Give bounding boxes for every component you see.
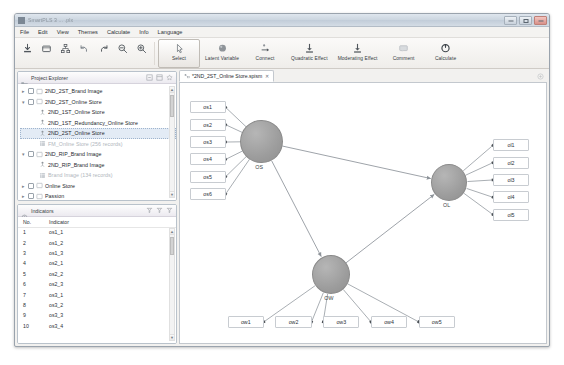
measurement-path-ow2[interactable] bbox=[312, 293, 324, 322]
twisty-expanded-icon[interactable]: ▾ bbox=[20, 151, 26, 157]
project-tree-item[interactable]: ▾2ND_RIP_Brand Image bbox=[20, 149, 176, 160]
measurement-path-ol4[interactable] bbox=[467, 188, 493, 197]
table-row[interactable]: 4os2_1 bbox=[18, 258, 176, 268]
project-tree[interactable]: ▸2ND_2ST_Brand Image▾2ND_2ST_Online Stor… bbox=[18, 84, 176, 200]
table-row[interactable]: 7os3_1 bbox=[18, 289, 176, 299]
measurement-path-ol5[interactable] bbox=[464, 193, 493, 214]
indicator-box-ol4[interactable]: ol4 bbox=[493, 191, 529, 203]
table-row[interactable]: 3os1_3 bbox=[18, 248, 176, 258]
indicator-box-ow4[interactable]: ow4 bbox=[371, 316, 407, 328]
project-tree-item[interactable]: FM_Online Store (256 records) bbox=[20, 139, 176, 150]
filter-clear-icon[interactable] bbox=[156, 207, 163, 214]
project-checkbox[interactable] bbox=[28, 193, 34, 199]
indicators-table-wrapper[interactable]: No. Indicator 1os1_12os1_23os1_34os2_15o… bbox=[18, 217, 176, 343]
project-checkbox[interactable] bbox=[28, 183, 34, 189]
redo-button[interactable] bbox=[94, 39, 113, 68]
project-tree-item[interactable]: ▸2ND_2ST_Brand Image bbox=[20, 86, 176, 97]
indicator-box-ol2[interactable]: ol2 bbox=[493, 157, 529, 169]
indicator-box-os1[interactable]: os1 bbox=[190, 101, 226, 113]
indicators-scroll-up-arrow[interactable]: ▲ bbox=[170, 229, 174, 235]
table-row[interactable]: 10os3_4 bbox=[18, 321, 176, 331]
minimize-button[interactable] bbox=[504, 16, 517, 25]
maximize-editor-icon[interactable] bbox=[537, 73, 544, 80]
measurement-path-os1[interactable] bbox=[226, 107, 247, 126]
project-tree-item[interactable]: ▸Passion bbox=[20, 191, 176, 200]
project-checkbox[interactable] bbox=[28, 151, 34, 157]
project-tree-item[interactable]: ▾2ND_2ST_Online Store bbox=[20, 97, 176, 108]
indicator-box-os3[interactable]: os3 bbox=[190, 136, 226, 148]
comment-tool-button[interactable]: Comment bbox=[383, 39, 425, 68]
connect-tool-button[interactable]: Connect bbox=[244, 39, 286, 68]
zoom-in-button[interactable] bbox=[132, 39, 151, 68]
collapse-all-icon[interactable] bbox=[146, 74, 153, 81]
favorite-icon[interactable] bbox=[166, 74, 173, 81]
project-tree-scrollbar[interactable]: ▲ ▼ bbox=[169, 86, 175, 198]
measurement-path-os4[interactable] bbox=[226, 151, 243, 159]
latent-variable-ow[interactable] bbox=[312, 255, 350, 294]
structural-path-OS-to-OW[interactable] bbox=[272, 161, 322, 257]
column-header-no[interactable]: No. bbox=[18, 217, 44, 227]
indicators-scroll-down-arrow[interactable]: ▼ bbox=[170, 334, 174, 340]
menu-calculate[interactable]: Calculate bbox=[106, 29, 131, 35]
zoom-out-button[interactable] bbox=[113, 39, 132, 68]
twisty-expanded-icon[interactable]: ▾ bbox=[20, 99, 26, 105]
model-canvas[interactable]: OSOLOWos1os2os3os4os5os6ol1ol2ol3ol4ol5o… bbox=[179, 83, 547, 344]
project-tree-item[interactable]: 2ND_1ST_Redundancy_Online Store bbox=[20, 118, 176, 129]
indicator-box-ol5[interactable]: ol5 bbox=[493, 209, 529, 221]
indicator-box-os2[interactable]: os2 bbox=[190, 119, 226, 131]
latent-variable-tool-button[interactable]: Latent Variable bbox=[200, 39, 244, 68]
column-header-indicator[interactable]: Indicator bbox=[44, 217, 176, 227]
quadratic-effect-tool-button[interactable]: Quadratic Effect bbox=[286, 39, 333, 68]
indicator-box-ol1[interactable]: ol1 bbox=[493, 139, 529, 151]
indicator-box-os6[interactable]: os6 bbox=[190, 188, 226, 200]
scroll-up-arrow[interactable]: ▲ bbox=[170, 87, 174, 93]
editor-tab-close-icon[interactable]: ✕ bbox=[265, 73, 269, 79]
twisty-collapsed-icon[interactable]: ▸ bbox=[20, 88, 26, 94]
table-row[interactable]: 5os2_2 bbox=[18, 269, 176, 279]
indicator-box-ow1[interactable]: ow1 bbox=[228, 316, 264, 328]
close-button[interactable] bbox=[534, 16, 547, 25]
measurement-path-os5[interactable] bbox=[226, 156, 247, 176]
scroll-thumb[interactable] bbox=[170, 95, 174, 117]
table-row[interactable]: 1os1_1 bbox=[18, 227, 176, 237]
indicators-scrollbar[interactable]: ▲ ▼ bbox=[169, 228, 175, 341]
project-tree-item[interactable]: ▸Online Store bbox=[20, 181, 176, 192]
layout-icon[interactable] bbox=[156, 74, 163, 81]
new-project-button[interactable] bbox=[37, 39, 56, 68]
maximize-button[interactable] bbox=[519, 16, 532, 25]
indicator-box-ow2[interactable]: ow2 bbox=[275, 316, 311, 328]
structural-path-OW-to-OL[interactable] bbox=[346, 194, 434, 263]
hierarchy-button[interactable] bbox=[56, 39, 75, 68]
project-tree-item[interactable]: 2ND_1ST_Online Store bbox=[20, 107, 176, 118]
project-tree-item-selected[interactable]: 2ND_2ST_Online Store bbox=[20, 128, 176, 139]
indicators-scroll-thumb[interactable] bbox=[170, 237, 174, 255]
measurement-path-ol3[interactable] bbox=[467, 180, 492, 182]
table-row[interactable]: 2os1_2 bbox=[18, 237, 176, 247]
calculate-tool-button[interactable]: Calculate bbox=[425, 39, 467, 68]
project-tree-item[interactable]: 2ND_RIP_Brand Image bbox=[20, 160, 176, 171]
menu-view[interactable]: View bbox=[56, 29, 70, 35]
twisty-collapsed-icon[interactable]: ▸ bbox=[20, 193, 26, 199]
menu-edit[interactable]: Edit bbox=[37, 29, 49, 35]
project-tree-item[interactable]: Brand Image (134 records) bbox=[20, 170, 176, 181]
table-row[interactable]: 9os3_3 bbox=[18, 310, 176, 320]
select-tool-button[interactable]: Select bbox=[158, 39, 200, 68]
table-row[interactable]: 8os3_2 bbox=[18, 300, 176, 310]
measurement-path-os2[interactable] bbox=[226, 125, 243, 133]
scroll-down-arrow[interactable]: ▼ bbox=[170, 191, 174, 197]
indicator-box-ow3[interactable]: ow3 bbox=[323, 316, 359, 328]
table-row[interactable]: 6os2_3 bbox=[18, 279, 176, 289]
indicator-box-os4[interactable]: os4 bbox=[190, 153, 226, 165]
moderating-effect-tool-button[interactable]: Moderating Effect bbox=[333, 39, 383, 68]
menu-file[interactable]: File bbox=[19, 29, 30, 35]
menu-language[interactable]: Language bbox=[157, 29, 184, 35]
measurement-path-ol1[interactable] bbox=[463, 145, 493, 171]
menu-info[interactable]: Info bbox=[138, 29, 149, 35]
latent-variable-os[interactable] bbox=[240, 120, 282, 163]
filter-settings-icon[interactable] bbox=[166, 207, 173, 214]
indicator-box-os5[interactable]: os5 bbox=[190, 171, 226, 183]
project-checkbox[interactable] bbox=[28, 88, 34, 94]
editor-tab-model[interactable]: *2ND_2ST_Online Store.spism ✕ bbox=[179, 70, 274, 82]
menu-themes[interactable]: Themes bbox=[77, 29, 99, 35]
structural-path-OS-to-OL[interactable] bbox=[282, 146, 430, 179]
